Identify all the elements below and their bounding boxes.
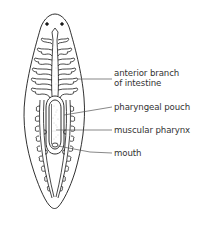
leader-mouth [58,146,112,153]
intestine-stipple [54,45,57,91]
eyespot-right [61,23,64,26]
pharynx-stipple [53,106,59,144]
label-muscular-pharynx-text: muscular pharynx [114,125,190,135]
label-muscular-pharynx: muscular pharynx [114,125,190,135]
label-pharyngeal-pouch: pharyngeal pouch [114,102,190,112]
body-outline [24,14,85,209]
label-mouth-text: mouth [114,148,141,158]
anterior-intestine [31,28,77,98]
label-anterior-branch-line1: anterior branch [114,68,179,78]
label-anterior-branch: anterior branch of intestine [114,68,179,88]
label-mouth: mouth [114,148,141,158]
planarian-body [24,14,85,209]
label-anterior-branch-line2: of intestine [114,78,179,88]
muscular-pharynx-outline [49,100,61,149]
eyespot-left [46,23,49,26]
label-pharyngeal-pouch-text: pharyngeal pouch [114,102,190,112]
pharynx-structure [46,96,64,154]
mouth-opening [52,143,58,147]
